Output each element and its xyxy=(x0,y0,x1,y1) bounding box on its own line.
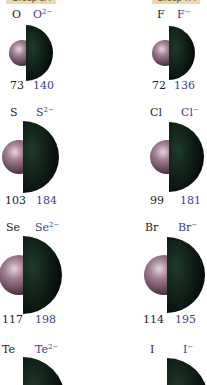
group-label-7a: Group 7A xyxy=(152,0,200,4)
ion-radius-o2-: 140 xyxy=(33,80,54,92)
atom-radius-s: 103 xyxy=(5,195,26,207)
cl-ion-half-sphere xyxy=(169,122,204,192)
ion-radius-f-: 136 xyxy=(174,80,195,92)
ion-radius-s2-: 184 xyxy=(36,195,57,207)
br-ion-half-sphere xyxy=(167,237,205,313)
f-atom-ion-spheres xyxy=(145,20,207,82)
atom-radius-br: 114 xyxy=(143,314,164,326)
f-ion-half-sphere xyxy=(169,26,195,80)
atom-radius-se: 117 xyxy=(2,314,23,326)
cl-atom-ion-spheres xyxy=(140,118,207,196)
ion-radius-cl-: 181 xyxy=(180,195,201,207)
s2-ion-half-sphere xyxy=(23,121,59,193)
o2-ion-half-sphere xyxy=(26,25,53,81)
se-atom-ion-spheres xyxy=(0,233,70,317)
i-ion-half-sphere-partial xyxy=(140,355,207,385)
ion-radius-se2-: 198 xyxy=(35,314,56,326)
atom-radius-cl: 99 xyxy=(150,195,164,207)
o-atom-ion-spheres xyxy=(0,20,70,82)
ion-radius-br-: 195 xyxy=(175,314,196,326)
te-ion-half-sphere-partial xyxy=(0,355,70,385)
se2-ion-half-sphere xyxy=(23,236,62,314)
s-atom-ion-spheres xyxy=(0,118,70,196)
group-label-6a: Group 6A xyxy=(6,0,56,4)
atom-radius-f: 72 xyxy=(152,80,166,92)
br-atom-ion-spheres xyxy=(140,233,207,317)
atom-radius-o: 73 xyxy=(10,80,24,92)
